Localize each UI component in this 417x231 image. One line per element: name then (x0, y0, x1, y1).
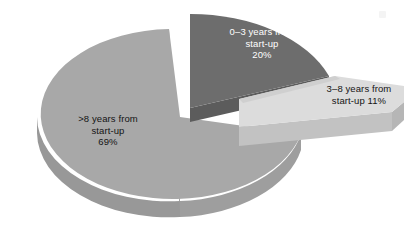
scan-artifact (379, 11, 386, 18)
pie-chart-graphic (0, 0, 417, 231)
pie-chart: >8 years from start-up 69% 0–3 years fro… (0, 0, 417, 231)
